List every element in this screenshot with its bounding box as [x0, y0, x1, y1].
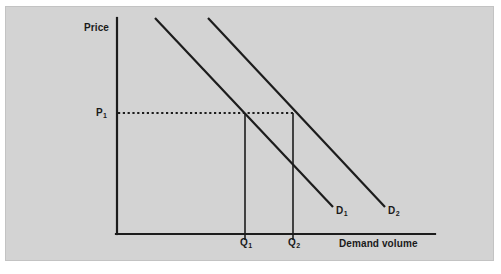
quantity-2-letter: Q	[288, 237, 296, 248]
price-level-subscript: 1	[103, 112, 107, 119]
price-level-letter: P	[96, 107, 103, 118]
quantity-1-label: Q1	[240, 237, 252, 248]
x-axis-title: Demand volume	[339, 238, 418, 249]
y-axis-title: Price	[84, 22, 109, 33]
price-level-label: P1	[96, 107, 107, 118]
demand-shift-figure: Price P1 Q1 Q2 D1 D2 Demand volume	[0, 0, 501, 274]
quantity-2-label: Q2	[288, 237, 300, 248]
chart-plot-area	[0, 0, 501, 274]
demand-curve-1-subscript: 1	[344, 210, 348, 217]
demand-curve-2-letter: D	[388, 205, 395, 216]
demand-curve-1-letter: D	[336, 205, 343, 216]
quantity-1-letter: Q	[240, 237, 248, 248]
quantity-1-subscript: 1	[248, 242, 252, 249]
demand-curve-1-label: D1	[336, 205, 347, 216]
demand-curve-2-subscript: 2	[396, 210, 400, 217]
quantity-2-subscript: 2	[296, 242, 300, 249]
demand-curve-2-label: D2	[388, 205, 399, 216]
